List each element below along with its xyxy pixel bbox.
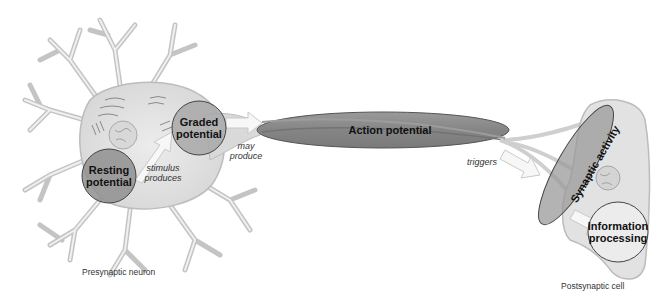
- graded-line2: potential: [170, 128, 228, 140]
- information-processing-label: Information processing: [585, 220, 651, 244]
- may-line2: produce: [226, 151, 266, 161]
- info-line2: processing: [585, 232, 651, 244]
- postsynaptic-caption: Postsynaptic cell: [561, 281, 624, 291]
- graded-line1: Graded: [170, 116, 228, 128]
- stimulus-produces-label: stimulus produces: [138, 163, 188, 183]
- presynaptic-caption: Presynaptic neuron: [82, 267, 155, 277]
- resting-line2: potential: [80, 176, 138, 188]
- stimulus-line1: stimulus: [138, 163, 188, 173]
- resting-line1: Resting: [80, 164, 138, 176]
- info-line1: Information: [585, 220, 651, 232]
- action-potential-label: Action potential: [330, 124, 450, 136]
- may-line1: may: [226, 141, 266, 151]
- may-produce-label: may produce: [226, 141, 266, 161]
- postsynaptic-nucleus: [596, 166, 620, 190]
- triggers-label: triggers: [462, 157, 502, 167]
- stimulus-line2: produces: [138, 173, 188, 183]
- arrow-triggers: [500, 150, 540, 178]
- diagram-artwork: [0, 0, 659, 306]
- nucleus: [109, 121, 137, 149]
- graded-potential-label: Graded potential: [170, 116, 228, 140]
- resting-potential-label: Resting potential: [80, 164, 138, 188]
- neuron-signal-diagram: Resting potential Graded potential Actio…: [0, 0, 659, 306]
